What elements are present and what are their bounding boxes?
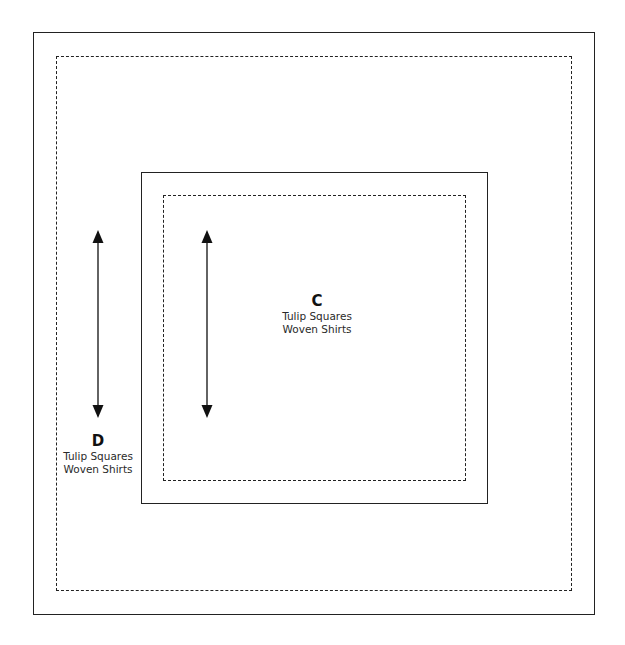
block-d-fabric-2: Woven Shirts [43, 463, 153, 476]
block-c-grainline-arrow-icon [197, 230, 217, 420]
block-c-letter: C [262, 293, 372, 310]
block-c-fabric-1: Tulip Squares [262, 310, 372, 323]
block-d-fabric-1: Tulip Squares [43, 450, 153, 463]
block-c-label: C Tulip Squares Woven Shirts [262, 293, 372, 336]
block-d-grainline-arrow-icon [88, 230, 108, 420]
block-d-label: D Tulip Squares Woven Shirts [43, 433, 153, 476]
block-c-fabric-2: Woven Shirts [262, 323, 372, 336]
block-d-letter: D [43, 433, 153, 450]
